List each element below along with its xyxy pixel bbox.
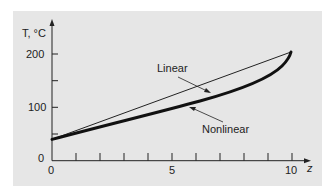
y-axis-arrow-icon xyxy=(50,19,55,26)
nonlinear-arrowhead-icon xyxy=(189,107,196,111)
linear-arrow xyxy=(178,77,209,92)
nonlinear-annotation: Nonlinear xyxy=(202,123,249,135)
y-axis-label: T, °C xyxy=(22,27,46,39)
linear-arrowhead-icon xyxy=(204,88,211,93)
x-ticks xyxy=(76,153,292,161)
y-tick-label-200: 200 xyxy=(26,48,44,60)
x-tick-label-5: 5 xyxy=(169,164,175,176)
x-axis-label: z xyxy=(306,162,313,174)
x-tick-label-0: 0 xyxy=(48,164,54,176)
y-tick-label-0: 0 xyxy=(38,152,44,164)
linear-annotation: Linear xyxy=(157,62,188,74)
y-tick-label-100: 100 xyxy=(28,101,46,113)
y-ticks xyxy=(52,54,58,134)
x-tick-label-10: 10 xyxy=(285,164,297,176)
nonlinear-arrow xyxy=(192,108,223,122)
temperature-chart: T, °C 200 100 0 0 5 10 z Linear Nonlinea… xyxy=(0,0,335,193)
